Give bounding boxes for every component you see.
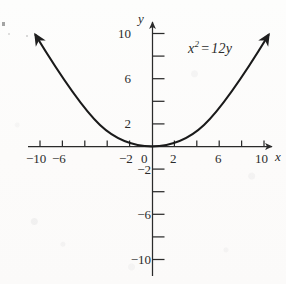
parabola-figure: −10 −6 −2 0 2 6 10 10 6 2 −2 −6 −10 y x … xyxy=(0,0,286,284)
y-tick-label: 2 xyxy=(125,117,132,130)
equation-rhs: 12y xyxy=(211,41,232,56)
x-tick-label: 10 xyxy=(255,152,268,165)
x-tick-label: 6 xyxy=(215,152,222,165)
y-tick-label: 6 xyxy=(125,72,132,85)
equation-relation: = xyxy=(199,41,211,56)
x-tick-label: −10 xyxy=(26,152,46,165)
y-tick-label: −2 xyxy=(137,163,151,176)
x-axis-name: x xyxy=(275,150,281,163)
y-axis-name: y xyxy=(138,12,144,25)
y-tick-label: −6 xyxy=(137,208,151,221)
x-tick-label: −2 xyxy=(119,152,133,165)
x-tick-label: −6 xyxy=(52,152,66,165)
equation-label: x2=12y xyxy=(188,42,232,56)
y-tick-label: −10 xyxy=(131,253,151,266)
x-tick-label: 2 xyxy=(170,152,177,165)
y-tick-label: 10 xyxy=(118,27,131,40)
y-axis xyxy=(153,22,165,276)
plot-canvas xyxy=(0,0,286,284)
